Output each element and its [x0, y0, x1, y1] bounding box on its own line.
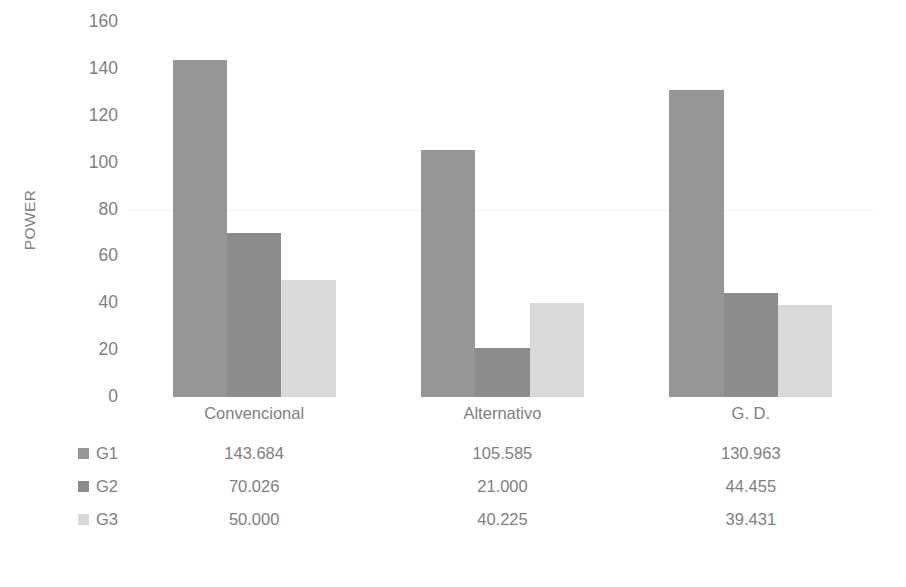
- x-category-0: Convencional: [130, 400, 378, 426]
- y-tick-40: 40: [58, 295, 118, 313]
- chart-page: POWER 160 140 120 100 80 60 40 20 0 Conv…: [0, 0, 906, 587]
- legend-label-g1: G1: [96, 445, 118, 462]
- bar-g2-g-d: [724, 293, 778, 397]
- y-tick-140: 140: [58, 60, 118, 78]
- legend-swatch-g2-icon: [78, 481, 89, 492]
- cell-g3-gd: 39.431: [627, 503, 875, 536]
- bar-g3-convencional: [281, 280, 335, 397]
- cell-g2-convencional: 70.026: [130, 470, 378, 503]
- table-row: G1 143.684 105.585 130.963: [78, 437, 878, 470]
- y-tick-0: 0: [58, 388, 118, 406]
- cell-g1-gd: 130.963: [627, 437, 875, 470]
- table-row: G2 70.026 21.000 44.455: [78, 470, 878, 503]
- legend-item-g1[interactable]: G1: [78, 437, 118, 470]
- y-tick-120: 120: [58, 107, 118, 125]
- cell-g1-alternativo: 105.585: [378, 437, 626, 470]
- data-table: G1 143.684 105.585 130.963 G2 70.026 21.…: [78, 437, 878, 536]
- y-tick-100: 100: [58, 154, 118, 172]
- cell-g2-alternativo: 21.000: [378, 470, 626, 503]
- legend-label-g2: G2: [96, 478, 118, 495]
- y-tick-20: 20: [58, 341, 118, 359]
- bar-g1-convencional: [173, 60, 227, 397]
- legend-item-g3[interactable]: G3: [78, 503, 118, 536]
- y-tick-60: 60: [58, 248, 118, 266]
- bar-g2-convencional: [227, 233, 281, 397]
- cell-g3-convencional: 50.000: [130, 503, 378, 536]
- legend-item-g2[interactable]: G2: [78, 470, 118, 503]
- bar-g3-g-d: [778, 305, 832, 397]
- y-tick-160: 160: [58, 13, 118, 31]
- y-axis-title-text: POWER: [21, 190, 39, 251]
- legend-label-g3: G3: [96, 511, 118, 528]
- plot-area: [130, 22, 875, 397]
- legend-swatch-g3-icon: [78, 514, 89, 525]
- cell-g2-gd: 44.455: [627, 470, 875, 503]
- bar-g2-alternativo: [475, 348, 529, 397]
- y-axis-title: POWER: [10, 175, 50, 265]
- gridline-80: [130, 210, 875, 211]
- legend-swatch-g1-icon: [78, 448, 89, 459]
- cell-g3-alternativo: 40.225: [378, 503, 626, 536]
- y-tick-80: 80: [58, 201, 118, 219]
- table-row: G3 50.000 40.225 39.431: [78, 503, 878, 536]
- bar-g1-g-d: [669, 90, 723, 397]
- x-category-2: G. D.: [627, 400, 875, 426]
- x-category-1: Alternativo: [378, 400, 626, 426]
- x-axis-categories: Convencional Alternativo G. D.: [130, 400, 875, 426]
- bar-g3-alternativo: [530, 303, 584, 397]
- bar-g1-alternativo: [421, 150, 475, 397]
- y-axis-ticks: 160 140 120 100 80 60 40 20 0: [58, 22, 118, 397]
- cell-g1-convencional: 143.684: [130, 437, 378, 470]
